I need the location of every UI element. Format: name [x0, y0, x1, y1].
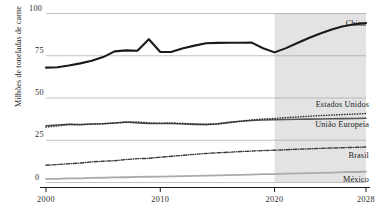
y-axis-title: Milhões de toneladas de carne [14, 0, 23, 127]
x-axis-ticks [46, 188, 366, 193]
series-label-uni-o-europeia: União Europeia [315, 120, 369, 129]
series-label-china: China [346, 19, 366, 28]
y-tick-75: 75 [35, 46, 44, 55]
y-tick-25: 25 [35, 130, 44, 139]
x-tick-2000: 2000 [26, 195, 66, 204]
series-label-estados-unidos: Estados Unidos [316, 100, 369, 109]
series-label-m-xico: México [343, 175, 369, 184]
x-tick-2010: 2010 [140, 195, 180, 204]
y-tick-0: 0 [35, 173, 39, 182]
y-tick-100: 100 [29, 4, 42, 13]
y-tick-50: 50 [35, 88, 44, 97]
x-tick-2028: 2028 [346, 195, 379, 204]
x-tick-2020: 2020 [255, 195, 295, 204]
series-label-brasil: Brasil [349, 151, 369, 160]
